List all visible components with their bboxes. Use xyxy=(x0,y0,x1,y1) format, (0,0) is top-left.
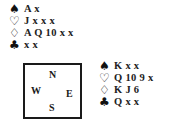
north-hearts-cards: J x x x xyxy=(24,15,55,27)
compass-east-label: E xyxy=(66,88,73,99)
se-diamonds-cards: K J 6 xyxy=(114,84,139,96)
se-clubs-row: ♣ Q x x xyxy=(98,96,153,108)
north-hand: ♠ A x ♡ J x x x ♢ A Q 10 x x ♣ x x xyxy=(8,3,74,51)
compass-west-label: W xyxy=(31,85,41,96)
north-clubs-cards: x x xyxy=(24,39,38,51)
compass-south-label: S xyxy=(49,102,55,113)
se-hearts-cards: Q 10 9 x xyxy=(114,72,153,84)
se-clubs-cards: Q x x xyxy=(114,96,139,108)
compass-north-label: N xyxy=(49,69,56,80)
se-spades-cards: K x x xyxy=(114,60,139,72)
club-icon: ♣ xyxy=(8,39,21,51)
compass-box: N W E S xyxy=(23,63,82,119)
club-icon: ♣ xyxy=(98,96,111,108)
north-clubs-row: ♣ x x xyxy=(8,39,74,51)
south-east-hand: ♠ K x x ♡ Q 10 9 x ♢ K J 6 ♣ Q x x xyxy=(98,60,153,108)
north-diamonds-cards: A Q 10 x x xyxy=(24,27,74,39)
north-spades-cards: A x xyxy=(24,3,40,15)
